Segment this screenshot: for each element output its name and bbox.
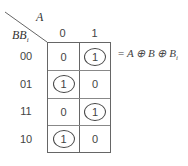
kmap-cell: 1 — [79, 43, 111, 70]
equation: = A ⊕ B ⊕ Bi — [118, 47, 178, 62]
circled-minterm: 1 — [84, 48, 106, 66]
kmap-cell: 0 — [48, 43, 79, 70]
row-header: 11 — [14, 105, 38, 117]
circled-minterm: 1 — [84, 103, 106, 121]
kmap-cell: 0 — [48, 98, 79, 125]
row-header: 01 — [14, 78, 38, 90]
cell-value: 0 — [60, 106, 66, 118]
row-variable-label: BBi — [12, 28, 29, 44]
cell-value: 0 — [60, 51, 66, 63]
kmap-cell: 1 — [79, 98, 111, 125]
circled-minterm: 1 — [53, 75, 75, 93]
kmap-cell: 0 — [79, 125, 111, 152]
circled-minterm: 1 — [53, 130, 75, 148]
column-variable-label: A — [36, 10, 43, 25]
equation-expression: A ⊕ B ⊕ B — [127, 47, 176, 59]
row-header: 00 — [14, 50, 38, 62]
row-header: 10 — [14, 133, 38, 145]
equation-prefix: = — [118, 47, 127, 59]
cell-value: 0 — [92, 78, 98, 90]
column-header: 0 — [47, 27, 78, 39]
kmap-cell: 1 — [48, 70, 79, 98]
kmap-cell: 0 — [79, 70, 111, 98]
cell-value: 0 — [92, 133, 98, 145]
karnaugh-map-grid: 01100110 — [47, 42, 111, 153]
row-variable-subscript: i — [27, 36, 29, 44]
row-variable-text: BB — [12, 28, 27, 42]
equation-subscript: i — [176, 54, 178, 62]
kmap-cell: 1 — [48, 125, 79, 152]
column-header: 1 — [78, 27, 111, 39]
